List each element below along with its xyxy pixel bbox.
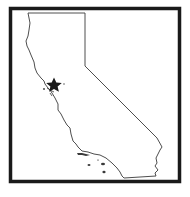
island: [101, 163, 105, 166]
island: [88, 164, 91, 166]
map-dot: [63, 83, 64, 84]
california-map: [0, 0, 190, 197]
map-container: [0, 0, 190, 197]
map-background: [0, 0, 190, 197]
map-dot: [43, 88, 45, 90]
island: [102, 171, 105, 173]
island: [97, 159, 99, 160]
